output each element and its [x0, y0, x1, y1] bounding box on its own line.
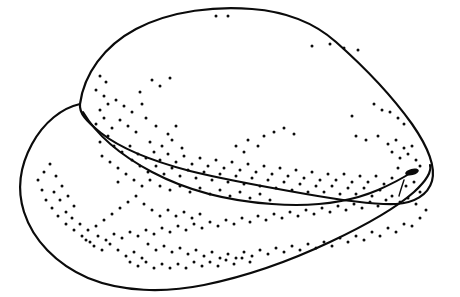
stipple-dot	[81, 235, 84, 238]
stipple-dot	[211, 251, 214, 254]
stipple-dot	[113, 233, 116, 236]
stipple-dot	[141, 185, 144, 188]
stipple-dot	[355, 193, 358, 196]
stipple-dot	[169, 77, 172, 80]
stipple-dot	[373, 103, 376, 106]
stipple-dot	[53, 191, 56, 194]
stipple-dot	[95, 89, 98, 92]
stipple-dot	[391, 195, 394, 198]
stipple-dot	[387, 227, 390, 230]
stipple-dot	[225, 219, 228, 222]
stipple-dot	[219, 173, 222, 176]
stipple-dot	[139, 91, 142, 94]
stipple-dot	[315, 185, 318, 188]
stipple-dot	[329, 211, 332, 214]
stipple-dot	[231, 161, 234, 164]
stipple-dot	[191, 163, 194, 166]
stipple-dot	[281, 217, 284, 220]
stipple-dot	[131, 111, 134, 114]
stipple-dot	[247, 163, 250, 166]
stipple-dot	[109, 243, 112, 246]
stipple-dot	[311, 171, 314, 174]
stipple-dot	[159, 215, 162, 218]
stipple-dot	[153, 151, 156, 154]
stipple-dot	[149, 179, 152, 182]
stipple-dot	[311, 45, 314, 48]
stipple-dot	[303, 177, 306, 180]
stipple-dot	[283, 181, 286, 184]
stipple-dot	[85, 239, 88, 242]
stipple-dot	[395, 231, 398, 234]
stipple-dot	[225, 259, 228, 262]
stipple-dot	[195, 249, 198, 252]
stipple-dot	[127, 125, 130, 128]
stipple-dot	[129, 231, 132, 234]
stipple-dot	[105, 81, 108, 84]
stipple-dot	[375, 175, 378, 178]
stipple-dot	[307, 191, 310, 194]
stipple-dot	[383, 183, 386, 186]
stipple-dot	[273, 131, 276, 134]
stipple-dot	[183, 211, 186, 214]
stipple-dot	[275, 247, 278, 250]
stipple-dot	[217, 225, 220, 228]
stipple-dot	[363, 239, 366, 242]
stipple-dot	[87, 229, 90, 232]
stipple-dot	[145, 261, 148, 264]
stipple-dot	[175, 215, 178, 218]
stipple-dot	[243, 251, 246, 254]
stipple-dot	[115, 99, 118, 102]
stipple-dot	[313, 213, 316, 216]
stipple-dot	[217, 265, 220, 268]
stipple-dot	[419, 165, 422, 168]
stipple-dot	[133, 179, 136, 182]
stipple-dot	[43, 171, 46, 174]
stipple-dot	[371, 195, 374, 198]
stipple-dot	[207, 165, 210, 168]
stipple-dot	[125, 255, 128, 258]
stipple-dot	[89, 241, 92, 244]
stipple-dot	[289, 211, 292, 214]
stipple-dot	[185, 229, 188, 232]
stipple-dot	[137, 265, 140, 268]
stipple-dot	[167, 209, 170, 212]
stipple-dot	[267, 179, 270, 182]
stipple-dot	[331, 185, 334, 188]
stipple-dot	[161, 145, 164, 148]
stipple-dot	[73, 229, 76, 232]
stipple-dot	[175, 125, 178, 128]
stipple-dot	[265, 219, 268, 222]
stipple-dot	[257, 145, 260, 148]
stipple-dot	[123, 105, 126, 108]
stipple-dot	[371, 231, 374, 234]
stipple-dot	[395, 139, 398, 142]
stipple-dot	[331, 245, 334, 248]
stipple-dot	[149, 141, 152, 144]
stipple-dot	[127, 201, 130, 204]
stipple-dot	[129, 145, 132, 148]
stipple-dot	[195, 177, 198, 180]
stipple-dot	[241, 217, 244, 220]
stipple-dot	[343, 173, 346, 176]
stipple-dot	[337, 205, 340, 208]
stipple-dot	[65, 211, 68, 214]
stipple-dot	[243, 151, 246, 154]
stipple-dot	[215, 159, 218, 162]
stipple-dot	[99, 109, 102, 112]
stipple-dot	[251, 255, 254, 258]
stipple-dot	[57, 215, 60, 218]
stipple-dot	[291, 245, 294, 248]
stipple-dot	[167, 133, 170, 136]
stipple-dot	[155, 165, 158, 168]
stipple-dot	[151, 209, 154, 212]
stipple-dot	[49, 163, 52, 166]
stipple-dot	[391, 177, 394, 180]
stipple-dot	[413, 181, 416, 184]
stipple-dot	[153, 267, 156, 270]
stipple-dot	[365, 139, 368, 142]
stipple-dot	[239, 191, 242, 194]
stipple-dot	[419, 191, 422, 194]
stipple-dot	[159, 185, 162, 188]
stipple-dot	[419, 217, 422, 220]
stipple-dot	[347, 241, 350, 244]
